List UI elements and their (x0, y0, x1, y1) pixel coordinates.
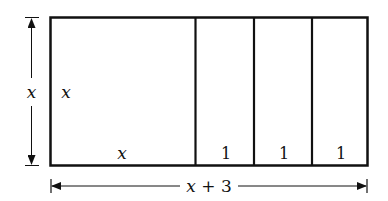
strip-label-1: 1 (221, 144, 231, 163)
horizontal-dimension-label: x + 3 (186, 176, 231, 196)
outer-rectangle (51, 18, 368, 166)
vertical-dimension-label: x (27, 82, 37, 102)
strip-label-3: 1 (336, 144, 346, 163)
square-bottom-label: x (117, 143, 127, 163)
strip-label-2: 1 (279, 144, 289, 163)
diagram-canvas: x x x 1 1 1 x + 3 (0, 0, 388, 201)
square-left-label: x (61, 82, 71, 102)
